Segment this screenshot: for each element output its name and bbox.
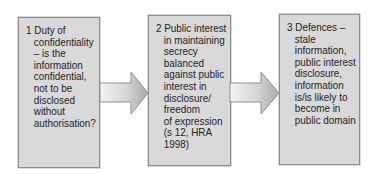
step-box-public-interest: 2 Public interest in maintaining secrecy…	[148, 15, 231, 166]
step-box-defences: 3 Defences – stale information, public i…	[279, 14, 360, 165]
step-text: 2 Public interest in maintaining secrecy…	[156, 23, 226, 151]
step-text: 1 Duty of confidentiality – is the infor…	[26, 25, 96, 129]
step-line: without	[26, 106, 96, 118]
step-line: authorisation?	[26, 118, 96, 130]
right-arrow-icon	[229, 70, 282, 118]
step-line: information	[287, 80, 356, 92]
step-line: 1 Duty of	[26, 25, 96, 37]
step-line: not to be	[26, 83, 96, 95]
step-line: become in	[287, 103, 356, 115]
step-line: public domain	[287, 115, 356, 127]
step-line: interest in	[156, 81, 226, 93]
step-line: 3 Defences –	[287, 22, 356, 34]
step-box-duty-of-confidentiality: 1 Duty of confidentiality – is the infor…	[18, 17, 100, 168]
step-line: 1998)	[156, 139, 226, 151]
step-line: freedom	[156, 104, 226, 116]
step-text: 3 Defences – stale information, public i…	[287, 22, 356, 126]
step-line: 2 Public interest	[156, 23, 226, 35]
right-arrow-icon	[99, 70, 151, 118]
